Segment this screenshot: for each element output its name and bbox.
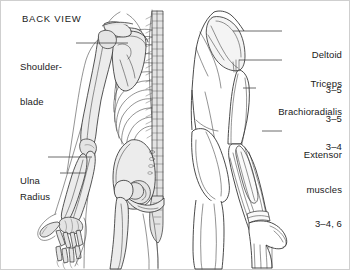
label-radius: Radius (20, 168, 50, 226)
label-brachioradialis-line1: Brachioradialis (222, 106, 342, 118)
label-radius-line1: Radius (20, 191, 50, 203)
label-shoulder-blade: Shoulder- blade (20, 38, 62, 130)
label-shoulder-blade-line2: blade (20, 96, 62, 108)
label-extensor-muscles: Extensor muscles 3–4, 6 (232, 126, 342, 253)
label-shoulder-blade-line1: Shoulder- (20, 61, 62, 73)
page-title: BACK VIEW (22, 13, 82, 24)
label-extensor-muscles-line1: Extensor (232, 149, 342, 161)
anatomy-figure: .ln { fill:none; stroke:#2b2b2b; stroke-… (0, 0, 350, 270)
label-extensor-muscles-line3: 3–4, 6 (232, 218, 342, 230)
label-extensor-muscles-line2: muscles (232, 184, 342, 196)
